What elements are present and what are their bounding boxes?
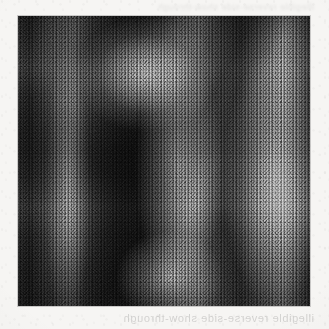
figure-highlight-lower bbox=[18, 16, 310, 306]
figure-highlight-centre bbox=[18, 16, 310, 306]
figure-shadow-centre-left bbox=[18, 16, 310, 306]
bleed-through-text-bottom: illegible reverse-side show-through bbox=[14, 311, 314, 325]
figure-highlight-left bbox=[18, 16, 310, 306]
figure-tone-base bbox=[18, 16, 310, 306]
figure-shadow-diagonal bbox=[18, 16, 310, 306]
figure-film-grain bbox=[18, 16, 310, 306]
figure-shadow-upper-left bbox=[18, 16, 310, 306]
scanned-page: illegible reverse-side show-through ille… bbox=[0, 0, 329, 329]
figure-film-grain-fine bbox=[18, 16, 310, 306]
figure-image bbox=[18, 16, 310, 306]
figure-tone-vertical bbox=[18, 16, 310, 306]
bleed-through-text-top: illegible reverse-side show-through bbox=[14, 2, 314, 13]
figure-highlight-upper bbox=[18, 16, 310, 306]
figure-highlight-right bbox=[18, 16, 310, 306]
figure-shadow-right-notch bbox=[18, 16, 310, 306]
